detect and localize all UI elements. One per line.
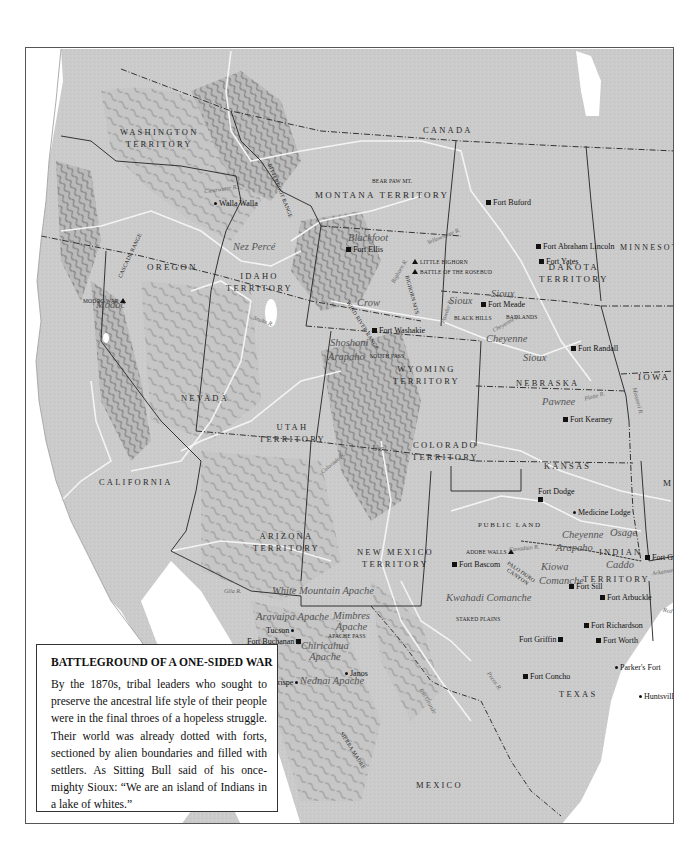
label-mexico: MEXICO [416, 781, 463, 790]
lake-tahoe [103, 333, 109, 343]
fort-square-icon [539, 259, 544, 264]
tribe-blackfoot: Blackfoot [348, 233, 388, 244]
tribe-mimbres-apache: Mimbres Apache [333, 611, 370, 632]
fort-label: Walla Walla [219, 199, 258, 208]
label-public-land: PUBLIC LAND [478, 522, 542, 529]
fort-label: Fort Washakie [379, 326, 425, 335]
battle-triangle-icon [412, 269, 418, 274]
fort-square-icon [571, 346, 576, 351]
fort-label: Fort Concho [530, 672, 570, 681]
label-line: Chiricahua [301, 641, 349, 652]
river-gila: Gila R. [224, 588, 241, 594]
label-line: Mimbres [333, 611, 370, 622]
fort-square-icon [372, 328, 377, 333]
label-line: TERRITORY [226, 284, 293, 293]
fort-meade: Fort Meade [481, 301, 525, 309]
fort-square-icon [481, 302, 486, 307]
label-line: TERRITORY [357, 560, 434, 569]
fort-square-icon [538, 497, 543, 502]
tribe-chiricahua-apache: Chiricahua Apache [301, 641, 349, 662]
fort-square-icon [600, 595, 605, 600]
feature-south-pass: SOUTH PASS [370, 354, 404, 360]
tribe-osage: Osage [610, 528, 637, 539]
fort-label: Fort Richardson [591, 621, 643, 630]
fort-label: Janos [350, 669, 368, 678]
label-line: COLORADO [412, 441, 479, 450]
tribe-pawnee: Pawnee [542, 397, 575, 408]
fort-yates: Fort Yates [539, 258, 578, 266]
label-canada: CANADA [423, 126, 473, 135]
fort-square-icon [558, 637, 563, 642]
feature-black-hills: BLACK HILLS [454, 316, 492, 322]
fort-square-icon [296, 639, 301, 644]
fort-gibson: Fort Gibson [645, 554, 674, 562]
label-mo: MO [663, 479, 674, 488]
tribe-crow: Crow [357, 298, 380, 309]
fort-label: Fort Yates [546, 257, 578, 266]
town-dot-icon [214, 202, 217, 205]
tribe-sioux-3: Sioux [523, 353, 546, 364]
label-idaho-territory: IDAHO TERRITORY [226, 272, 293, 292]
fort-concho: Fort Concho [523, 673, 570, 681]
fort-buford: Fort Buford [486, 199, 531, 207]
fort-washakie: Fort Washakie [372, 327, 425, 335]
janos: Janos [343, 670, 368, 678]
fort-square-icon [536, 244, 541, 249]
label-line: ARIZONA [253, 532, 320, 541]
fort-richardson: Fort Richardson [584, 622, 643, 630]
fort-label: Fort Randall [578, 344, 618, 353]
tribe-arapaho-1: Arapaho [328, 352, 365, 363]
fort-dodge: Fort Dodge [538, 488, 575, 504]
town-dot-icon [573, 511, 576, 514]
battle-little-bighorn: LITTLE BIGHORN [412, 259, 468, 266]
label-nevada: NEVADA [181, 394, 229, 403]
fort-label: Fort Ellis [353, 245, 383, 254]
tribe-sioux-2: Sioux [491, 289, 514, 300]
tucson: Tucson [266, 627, 296, 635]
label-line: UTAH [259, 423, 326, 432]
fort-square-icon [346, 247, 351, 252]
label-line: TERRITORY [259, 435, 326, 444]
label-nebraska: NEBRASKA [516, 379, 579, 388]
fort-square-icon [452, 562, 457, 567]
battle-label: MODOC WAR [83, 298, 119, 304]
label-line: IDAHO [226, 272, 293, 281]
label-line: Apache [301, 652, 349, 663]
label-texas: TEXAS [559, 690, 597, 699]
tribe-white-mountain-apache: White Mountain Apache [272, 586, 374, 597]
fort-bascom: Fort Bascom [452, 561, 500, 569]
label-line: TERRITORY [412, 453, 479, 462]
tribe-nez-perce: Nez Percé [233, 242, 275, 253]
battle-rosebud: BATTLE OF THE ROSEBUD [412, 269, 492, 276]
fort-label: Fort Meade [488, 300, 525, 309]
town-dot-icon [291, 629, 294, 632]
fort-label: Fort Griffin [519, 635, 556, 644]
fort-randall: Fort Randall [571, 345, 618, 353]
fort-square-icon [523, 674, 528, 679]
fort-square-icon [596, 638, 601, 643]
battle-label: LITTLE BIGHORN [420, 259, 468, 265]
fort-sill: Fort Sill [569, 583, 602, 591]
tribe-aravaipa-apache: Aravaipa Apache [256, 612, 329, 623]
fort-arbuckle: Fort Arbuckle [600, 594, 652, 602]
label-washington-territory: WASHINGTON TERRITORY [120, 128, 199, 148]
fort-griffin: Fort Griffin [519, 636, 565, 644]
label-minnesota: MINNESOTA [620, 244, 674, 252]
fort-square-icon [584, 623, 589, 628]
label-utah-territory: UTAH TERRITORY [259, 423, 326, 443]
fort-worth: Fort Worth [596, 637, 638, 645]
fort-label: Fort Gibson [652, 553, 674, 562]
label-california: CALIFORNIA [99, 478, 172, 487]
feature-apache-pass: APACHE PASS [328, 634, 366, 640]
tribe-caddo: Caddo [606, 560, 634, 571]
label-line: WYOMING [393, 365, 460, 374]
tribe-kwahadi-comanche: Kwahadi Comanche [446, 593, 531, 604]
label-kansas: KANSAS [544, 462, 591, 471]
label-iowa: IOWA [638, 373, 670, 382]
tribe-cheyenne-2: Cheyenne [562, 530, 603, 541]
fort-label: Fort Sill [576, 582, 602, 591]
label-wyoming-territory: WYOMING TERRITORY [393, 365, 460, 385]
feature-bear-paw: BEAR PAW MT. [372, 179, 412, 185]
label-indian: INDIAN [599, 548, 642, 557]
battle-label: BATTLE OF THE ROSEBUD [420, 269, 492, 275]
